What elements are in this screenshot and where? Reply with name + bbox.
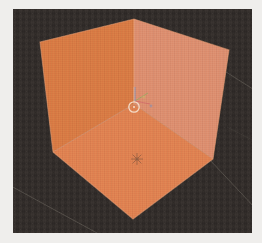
light-center-icon bbox=[135, 157, 138, 160]
gizmo-handle-icon[interactable] bbox=[142, 95, 145, 98]
gizmo-handle-icon[interactable] bbox=[150, 105, 153, 108]
viewport-frame bbox=[0, 0, 262, 243]
origin-dot-icon bbox=[133, 106, 135, 108]
light-object-icon[interactable] bbox=[131, 153, 143, 165]
viewport-render[interactable] bbox=[13, 9, 252, 233]
viewport-canvas[interactable] bbox=[13, 9, 252, 233]
